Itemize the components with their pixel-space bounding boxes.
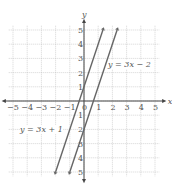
svg-text:3: 3 — [125, 103, 130, 112]
coordinate-plane: −5−4−3−2−10123455432112345xy — [0, 0, 172, 184]
svg-text:−1: −1 — [64, 103, 76, 112]
line-label-3x-minus-2: y = 3x − 2 — [108, 60, 151, 69]
svg-text:2: 2 — [110, 103, 115, 112]
svg-text:1: 1 — [78, 83, 83, 92]
svg-text:1: 1 — [78, 111, 83, 120]
svg-text:4: 4 — [78, 40, 83, 49]
svg-text:4: 4 — [78, 154, 83, 163]
svg-text:5: 5 — [78, 168, 83, 177]
svg-text:x: x — [168, 97, 172, 106]
svg-text:1: 1 — [96, 103, 101, 112]
svg-text:y: y — [81, 10, 87, 19]
svg-text:2: 2 — [78, 125, 83, 134]
line-label-3x-plus-1: y = 3x + 1 — [20, 125, 63, 134]
svg-text:−5: −5 — [7, 103, 19, 112]
svg-text:4: 4 — [139, 103, 144, 112]
svg-text:5: 5 — [153, 103, 158, 112]
svg-text:3: 3 — [78, 54, 83, 63]
svg-text:−4: −4 — [21, 103, 33, 112]
svg-text:−3: −3 — [35, 103, 47, 112]
svg-text:5: 5 — [78, 26, 83, 35]
svg-text:3: 3 — [78, 140, 83, 149]
svg-text:2: 2 — [78, 69, 83, 78]
svg-text:−2: −2 — [50, 103, 62, 112]
